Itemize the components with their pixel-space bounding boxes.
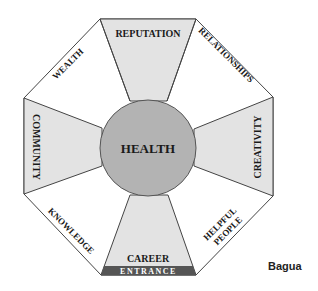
career-label: CAREER (127, 253, 170, 264)
health-label: HEALTH (121, 141, 175, 156)
creativity-label: CREATIVITY (252, 115, 263, 179)
reputation-label: REPUTATION (115, 28, 181, 39)
community-label: COMMUNITY (31, 114, 42, 181)
entrance-label: ENTRANCE (120, 267, 177, 276)
diagram-caption: Bagua (268, 260, 302, 272)
bagua-diagram: ENTRANCE HEALTH REPUTATION RELATIONSHIPS… (0, 0, 318, 291)
